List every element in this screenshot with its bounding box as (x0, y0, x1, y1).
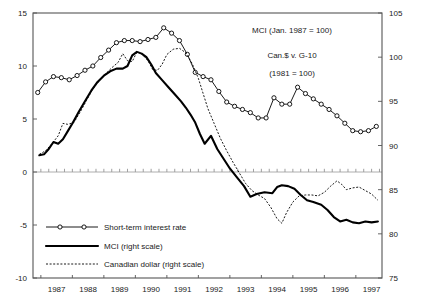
data-point-marker (99, 55, 103, 59)
data-point-marker (366, 129, 370, 133)
x-axis-tick-label: 1995 (300, 285, 318, 294)
annotation-text: (1981 = 100) (269, 69, 315, 78)
plot-frame (33, 13, 382, 278)
data-point-marker (272, 96, 276, 100)
data-point-marker (295, 85, 299, 89)
y-axis-right-tick-label: 95 (389, 97, 398, 106)
data-point-marker (177, 38, 181, 42)
series-line-short-term-interest-rate (38, 28, 377, 132)
annotation-text: Can.$ v. G-10 (267, 51, 317, 60)
data-point-marker (217, 89, 221, 93)
y-axis-left-tick-label: -10 (15, 274, 27, 283)
x-axis-tick-label: 1997 (363, 285, 381, 294)
chart-annotations: MCI (Jan. 1987 = 100)Can.$ v. G-10(1981 … (252, 26, 332, 78)
data-point-marker (248, 111, 252, 115)
legend-item-label: MCI (right scale) (104, 242, 163, 251)
y-axis-left-tick-label: 10 (18, 62, 27, 71)
x-axis-tick-label: 1994 (268, 285, 286, 294)
y-axis-right-labels: 1051009590858075 (389, 9, 403, 283)
data-point-marker (44, 80, 48, 84)
data-point-marker (209, 78, 213, 82)
series-line-mci (39, 52, 378, 223)
chart-legend: Short-term interest rateMCI (right scale… (46, 223, 204, 269)
y-axis-left-tick-label: 0 (23, 168, 28, 177)
data-point-marker (154, 35, 158, 39)
legend-item-label: Short-term interest rate (104, 223, 187, 232)
data-point-marker (162, 26, 166, 30)
data-point-marker (288, 102, 292, 106)
data-point-marker (83, 68, 87, 72)
y-axis-left-ticks (33, 13, 37, 278)
chart-svg: 151050-5-10 1051009590858075 19871988198… (0, 0, 422, 307)
chart-container: 151050-5-10 1051009590858075 19871988198… (0, 0, 422, 307)
y-axis-right-tick-label: 100 (389, 53, 403, 62)
x-axis-minor-ticks (41, 169, 380, 172)
series-layer (36, 26, 379, 223)
x-axis-tick-label: 1987 (48, 285, 66, 294)
x-axis-tick-label: 1989 (111, 285, 129, 294)
x-axis-tick-label: 1993 (237, 285, 255, 294)
x-axis-tick-label: 1996 (331, 285, 349, 294)
y-axis-right-tick-label: 75 (389, 274, 398, 283)
y-axis-right-tick-label: 105 (389, 9, 403, 18)
data-point-marker (114, 41, 118, 45)
legend-item-label: Canadian dollar (right scale) (104, 260, 204, 269)
y-axis-left-tick-label: 5 (23, 115, 28, 124)
data-point-marker (91, 64, 95, 68)
data-point-marker (256, 116, 260, 120)
x-axis-tick-label: 1990 (142, 285, 160, 294)
data-point-marker (169, 31, 173, 35)
y-axis-left-tick-label: -5 (20, 221, 28, 230)
data-point-marker (51, 75, 55, 79)
data-point-marker (232, 104, 236, 108)
y-axis-left-labels: 151050-5-10 (15, 9, 27, 283)
data-point-marker (107, 48, 111, 52)
data-point-marker (130, 38, 134, 42)
y-axis-right-tick-label: 85 (389, 186, 398, 195)
x-axis-tick-label: 1992 (205, 285, 223, 294)
data-point-marker (335, 114, 339, 118)
y-axis-right-ticks (378, 13, 382, 278)
data-point-marker (358, 130, 362, 134)
data-point-marker (67, 78, 71, 82)
data-point-marker (351, 129, 355, 133)
data-point-marker (343, 121, 347, 125)
y-axis-right-tick-label: 80 (389, 230, 398, 239)
series-line-canadian-dollar (39, 48, 378, 223)
x-axis-tick-label: 1988 (79, 285, 97, 294)
data-point-marker (36, 90, 40, 94)
annotation-text: MCI (Jan. 1987 = 100) (252, 26, 332, 35)
legend-marker-icon (58, 225, 62, 229)
data-point-marker (240, 107, 244, 111)
data-point-marker (138, 40, 142, 44)
data-point-marker (75, 73, 79, 77)
y-axis-left-tick-label: 15 (18, 9, 27, 18)
data-point-marker (59, 76, 63, 80)
data-point-marker (311, 97, 315, 101)
data-point-marker (122, 38, 126, 42)
x-axis-tick-label: 1991 (174, 285, 192, 294)
data-point-marker (264, 116, 268, 120)
data-point-marker (193, 70, 197, 74)
data-point-marker (146, 37, 150, 41)
data-point-marker (327, 107, 331, 111)
data-point-marker (280, 102, 284, 106)
legend-marker-icon (82, 225, 86, 229)
y-axis-right-tick-label: 90 (389, 142, 398, 151)
data-point-marker (374, 124, 378, 128)
data-point-marker (225, 100, 229, 104)
data-point-marker (201, 75, 205, 79)
data-point-marker (303, 91, 307, 95)
data-point-marker (319, 102, 323, 106)
